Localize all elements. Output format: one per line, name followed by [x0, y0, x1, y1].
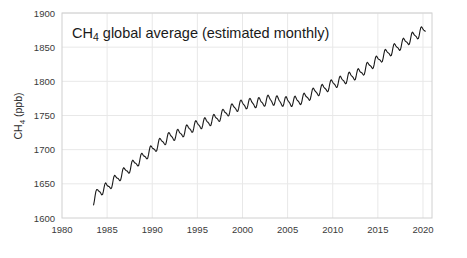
- x-tick-label: 2005: [277, 224, 298, 235]
- y-tick-label: 1750: [34, 110, 55, 121]
- y-tick-label: 1900: [34, 8, 55, 19]
- x-tick-label: 1980: [51, 224, 72, 235]
- x-tick-label: 2010: [322, 224, 343, 235]
- x-tick-label: 2020: [412, 224, 433, 235]
- y-tick-label: 1800: [34, 76, 55, 87]
- x-tick-label: 1990: [142, 224, 163, 235]
- x-tick-label: 1985: [97, 224, 118, 235]
- x-tick-label: 2000: [232, 224, 253, 235]
- chart-container: 198019851990199520002005201020152020 160…: [0, 0, 467, 258]
- y-tick-label: 1700: [34, 144, 55, 155]
- y-tick-label: 1650: [34, 178, 55, 189]
- x-axis-tick-labels: 198019851990199520002005201020152020: [51, 224, 433, 235]
- chart-title: CH4 global average (estimated monthly): [72, 25, 329, 43]
- y-tick-label: 1600: [34, 213, 55, 224]
- ch4-line-chart: 198019851990199520002005201020152020 160…: [0, 0, 467, 258]
- x-tick-label: 2015: [367, 224, 388, 235]
- x-tick-label: 1995: [187, 224, 208, 235]
- y-tick-label: 1850: [34, 42, 55, 53]
